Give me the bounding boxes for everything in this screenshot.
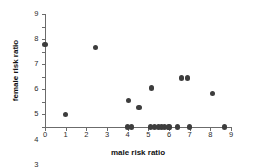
y-tick-mark: 8: [42, 27, 46, 28]
x-tick-label: 7: [188, 131, 192, 139]
data-point: [42, 42, 47, 47]
data-point: [185, 75, 190, 80]
data-point: [210, 91, 215, 96]
data-point: [175, 124, 180, 129]
data-point: [63, 112, 68, 117]
y-tick-label: 4: [34, 136, 38, 144]
data-point: [179, 75, 184, 80]
y-tick-label: 6: [34, 86, 38, 94]
x-axis-title: male risk ratio: [45, 148, 231, 157]
y-tick-label: 9: [34, 10, 38, 18]
x-tick-label: 9: [229, 131, 233, 139]
data-point: [93, 45, 98, 50]
data-point: [187, 124, 192, 129]
data-point: [129, 124, 134, 129]
y-tick-label: 3: [34, 161, 38, 168]
y-tick-mark: 6: [42, 52, 46, 53]
y-axis-title: female risk ratio: [11, 14, 22, 127]
x-tick-label: 3: [105, 131, 109, 139]
data-point: [126, 98, 131, 103]
x-tick-label: 2: [84, 131, 88, 139]
y-tick-mark: 4: [42, 77, 46, 78]
data-point: [136, 105, 141, 110]
x-tick-label: 4: [126, 131, 130, 139]
y-tick-mark: 2: [42, 102, 46, 103]
data-point: [149, 85, 154, 90]
y-tick-label: 7: [34, 60, 38, 68]
x-tick-label: 0: [43, 131, 47, 139]
plot-area: 0123456789 0123456789: [45, 14, 231, 127]
x-tick-label: 1: [64, 131, 68, 139]
y-tick-mark: 3: [42, 89, 46, 90]
y-tick-mark: 1: [42, 114, 46, 115]
y-tick-mark: 7: [42, 39, 46, 40]
y-tick-mark: 9: [42, 14, 46, 15]
x-tick-label: 8: [208, 131, 212, 139]
y-tick-label: 5: [34, 111, 38, 119]
y-tick-mark: 5: [42, 64, 46, 65]
scatter-chart: 0123456789 0123456789 male risk ratio fe…: [0, 0, 254, 168]
data-point: [166, 124, 171, 129]
y-tick-label: 8: [34, 35, 38, 43]
x-tick-label: 5: [146, 131, 150, 139]
x-tick-label: 6: [167, 131, 171, 139]
data-point: [222, 124, 227, 129]
